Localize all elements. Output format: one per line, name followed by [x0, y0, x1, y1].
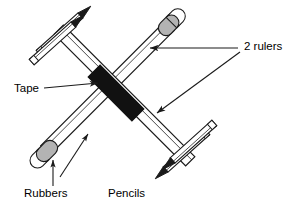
technical-diagram: 2 rulers Tape Rubbers Pencils: [0, 0, 294, 204]
label-pencils: Pencils: [108, 187, 145, 199]
label-2-rulers: 2 rulers: [244, 40, 283, 52]
label-rubbers: Rubbers: [24, 187, 68, 199]
diagram-container: 2 rulers Tape Rubbers Pencils: [0, 0, 294, 204]
label-tape: Tape: [14, 82, 39, 94]
diagram-background: [0, 0, 294, 204]
